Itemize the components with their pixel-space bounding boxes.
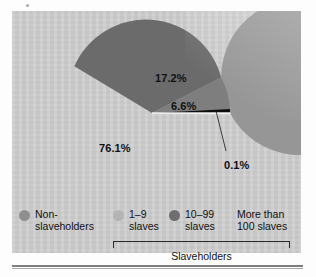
slaveholders-bracket-label: Slaveholders	[113, 250, 290, 262]
legend-item-one-to-nine[interactable]: 1–9 slaves	[113, 209, 159, 232]
legend-item-label: More than 100 slaves	[237, 209, 287, 232]
scan-speck	[26, 4, 29, 7]
slice-value-ten-to-99: 17.2%	[155, 72, 187, 84]
legend-item-label: Non- slaveholders	[35, 209, 94, 232]
chart-panel: 76.1% 17.2% 6.6% 0.1% Non- slaveholders …	[12, 11, 301, 253]
slice-value-more-than-100: 0.1%	[224, 159, 249, 171]
legend-item-more-than-100[interactable]: More than 100 slaves	[232, 209, 287, 232]
legend-item-label: 10–99 slaves	[185, 209, 215, 232]
slice-value-one-to-nine: 6.6%	[171, 100, 196, 112]
callout-leader-line	[216, 111, 226, 151]
legend-swatch-icon	[169, 210, 180, 221]
legend-swatch-icon	[19, 210, 30, 221]
slaveholders-bracket	[113, 241, 290, 248]
bottom-rule-thick	[12, 265, 303, 267]
bottom-rule-thin	[12, 268, 303, 269]
chart-legend: Non- slaveholders 1–9 slaves 10–99 slave…	[12, 207, 301, 253]
legend-item-ten-to-99[interactable]: 10–99 slaves	[169, 209, 215, 232]
legend-swatch-icon	[113, 210, 124, 221]
legend-item-label: 1–9 slaves	[129, 209, 159, 232]
figure-page: 76.1% 17.2% 6.6% 0.1% Non- slaveholders …	[0, 0, 316, 277]
slice-value-nonslaveholders: 76.1%	[99, 142, 131, 154]
legend-item-nonslaveholders[interactable]: Non- slaveholders	[19, 209, 94, 232]
